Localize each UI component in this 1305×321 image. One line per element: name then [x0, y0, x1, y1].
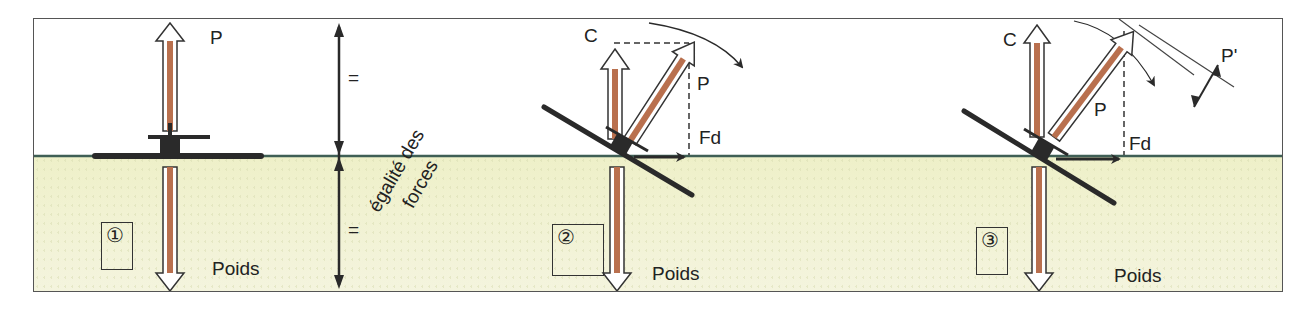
diagram-frame: P Poids ① = = égalité des forces C P Fd … [33, 18, 1283, 292]
panel-3-reduced-lift-label: P' [1221, 45, 1237, 67]
equality-upper-sign: = [348, 67, 359, 89]
panel-2-number: ② [557, 225, 575, 249]
panel-2-drag-label: Fd [699, 127, 721, 149]
panel-3-number: ③ [981, 228, 999, 252]
panel-3-lift-label: P [1094, 99, 1107, 121]
panel-2-component-label: C [584, 25, 598, 47]
panel-1-weight-label: Poids [212, 258, 260, 280]
panel-3-weight-label: Poids [1114, 265, 1162, 287]
panel-2-lift-label: P [697, 73, 710, 95]
panel-3-number-box: ③ [976, 227, 1008, 275]
force-diagram [34, 19, 1283, 292]
panel-2-number-box: ② [552, 224, 604, 276]
panel-1-lift-label: P [210, 27, 223, 49]
panel-3-component-label: C [1003, 29, 1017, 51]
panel-1-number: ① [106, 223, 124, 247]
panel-3-drag-label: Fd [1129, 133, 1151, 155]
panel-2-weight-label: Poids [652, 263, 700, 285]
equality-lower-sign: = [348, 219, 359, 241]
panel-1-number-box: ① [101, 222, 133, 270]
